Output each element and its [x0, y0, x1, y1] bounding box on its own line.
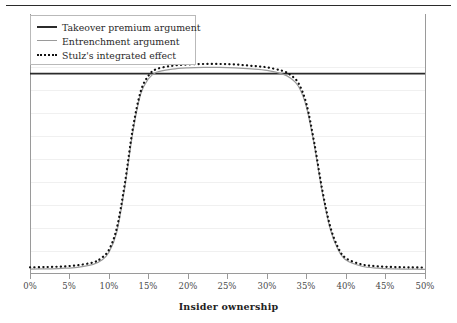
x-tick: [425, 274, 426, 279]
x-tick: [227, 274, 228, 279]
legend-label: Takeover premium argument: [62, 21, 200, 34]
legend-item-stulz-integrated: Stulz's integrated effect: [37, 48, 190, 62]
legend-label: Stulz's integrated effect: [62, 49, 176, 62]
legend-label: Entrenchment argument: [62, 35, 180, 48]
x-tick: [188, 274, 189, 279]
x-tick: [385, 274, 386, 279]
solid-thick-line-icon: [37, 21, 57, 33]
x-tick-label: 45%: [365, 281, 405, 291]
x-tick: [148, 274, 149, 279]
x-tick: [306, 274, 307, 279]
x-tick-label: 20%: [168, 281, 208, 291]
series-entrenchment-argument: [30, 67, 425, 269]
x-tick-label: 15%: [128, 281, 168, 291]
x-tick: [69, 274, 70, 279]
x-tick-label: 0%: [10, 281, 50, 291]
chart-figure: 0% 5% 10% 15% 20% 25% 30% 35% 40% 45% 50…: [0, 0, 457, 323]
x-tick-label: 25%: [207, 281, 247, 291]
x-tick: [109, 274, 110, 279]
x-tick-label: 10%: [89, 281, 129, 291]
x-tick: [346, 274, 347, 279]
series-stulz-s-integrated-effect: [30, 64, 425, 268]
x-tick: [267, 274, 268, 279]
x-tick-label: 30%: [247, 281, 287, 291]
dotted-line-icon: [37, 49, 57, 61]
x-tick-label: 50%: [405, 281, 445, 291]
x-axis-title: Insider ownership: [0, 301, 457, 312]
legend-item-entrenchment: Entrenchment argument: [37, 34, 190, 48]
x-tick-label: 5%: [49, 281, 89, 291]
x-tick-label: 35%: [286, 281, 326, 291]
chart-legend: Takeover premium argument Entrenchment a…: [30, 15, 196, 65]
x-tick-label: 40%: [326, 281, 366, 291]
solid-thin-line-icon: [37, 35, 57, 47]
x-tick: [30, 274, 31, 279]
legend-item-takeover-premium: Takeover premium argument: [37, 20, 190, 34]
